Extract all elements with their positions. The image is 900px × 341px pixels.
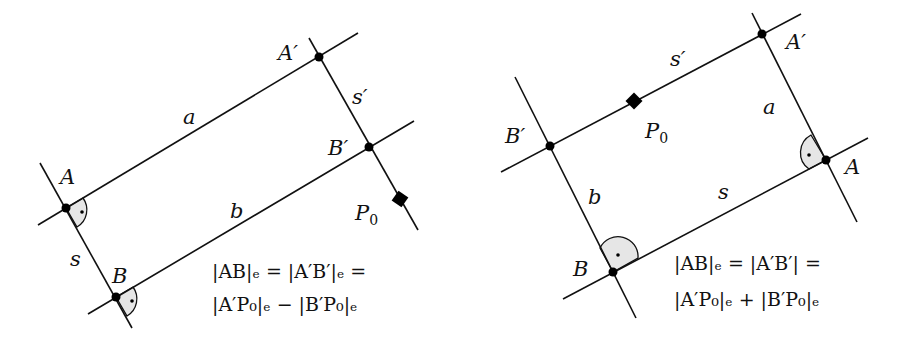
point-A-prime	[758, 30, 767, 39]
equation-line-1: |AB|ₑ = |A′B′|ₑ =	[212, 260, 366, 283]
line-a	[38, 33, 358, 225]
label-s-prime: s′	[670, 47, 686, 71]
right-angle-dot-B	[616, 253, 620, 257]
label-s: s	[718, 180, 729, 204]
equation-line-2: |A′P₀|ₑ − |B′P₀|ₑ	[212, 293, 357, 316]
diagram-canvas: A A′ B B′ a b s s′ P0 |AB|ₑ = |A′B′|ₑ = …	[0, 0, 900, 341]
label-s: s	[70, 247, 81, 271]
point-B-prime	[546, 142, 555, 151]
line-s-prime	[501, 14, 801, 172]
right-angle-dot-B	[130, 299, 134, 303]
label-a: a	[763, 95, 776, 119]
point-A	[62, 204, 71, 213]
label-B: B	[572, 257, 588, 281]
label-b: b	[230, 199, 243, 223]
point-B	[112, 293, 121, 302]
label-B-prime: B′	[327, 136, 348, 160]
point-A-prime	[315, 53, 324, 62]
line-b	[515, 77, 636, 318]
left-diagram: A A′ B B′ a b s s′ P0 |AB|ₑ = |A′B′|ₑ = …	[38, 33, 418, 328]
label-A: A	[843, 155, 860, 179]
right-diagram: A′ B′ A B a b s s′ P0 |AB|ₑ = |A′B′| = |…	[501, 13, 868, 318]
label-P0: P0	[354, 201, 378, 228]
point-P0-diamond	[392, 191, 409, 208]
point-P0-diamond	[626, 93, 643, 110]
label-A: A	[58, 165, 75, 189]
label-a: a	[183, 105, 196, 129]
label-b: b	[588, 185, 601, 209]
label-P0: P0	[644, 119, 668, 146]
label-s-prime: s′	[352, 85, 368, 109]
equation-line-2: |A′P₀|ₑ + |B′P₀|ₑ	[674, 288, 819, 311]
right-angle-dot-A	[80, 210, 84, 214]
point-B-prime	[365, 143, 374, 152]
label-A-prime: A′	[784, 30, 806, 54]
point-A	[822, 156, 831, 165]
label-B-prime: B′	[504, 124, 525, 148]
right-angle-dot-A	[807, 153, 811, 157]
label-A-prime: A′	[276, 41, 298, 65]
point-B	[609, 268, 618, 277]
line-s	[40, 163, 132, 328]
equation-line-1: |AB|ₑ = |A′B′| =	[674, 252, 821, 275]
label-B: B	[111, 264, 127, 288]
